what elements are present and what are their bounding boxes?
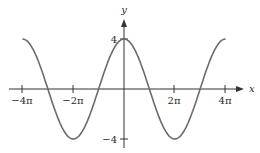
x-axis-arrow-icon xyxy=(236,86,244,92)
x-tick-label-2pi: 2π xyxy=(168,95,181,106)
x-tick-label-4pi: 4π xyxy=(219,95,232,106)
x-axis-label: x xyxy=(249,83,255,94)
x-tick-label-neg2pi: −2π xyxy=(62,95,84,106)
y-axis-arrow-icon xyxy=(121,19,127,27)
y-tick-label-4: 4 xyxy=(111,34,117,45)
y-axis-label: y xyxy=(120,4,127,15)
function-graph: −4π −2π 2π 4π 4 −4 x y xyxy=(0,0,260,153)
y-tick-label-neg4: −4 xyxy=(102,134,117,145)
x-tick-label-neg4pi: −4π xyxy=(11,95,33,106)
